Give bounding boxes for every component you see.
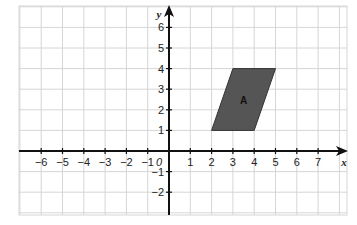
y-tick-label: −2: [151, 186, 164, 198]
x-tick-label: 5: [272, 156, 278, 168]
tick-labels: −6−5−4−3−2−11234567654321−1−20xy: [35, 8, 347, 198]
x-tick-label: 6: [294, 156, 300, 168]
y-tick-label: 2: [158, 104, 164, 116]
y-axis-label: y: [155, 8, 162, 20]
x-axis-label: x: [340, 156, 347, 168]
x-tick-label: 2: [209, 156, 215, 168]
y-tick-label: 3: [158, 83, 164, 95]
x-tick-label: 1: [187, 156, 193, 168]
shape-label: A: [240, 95, 247, 106]
x-tick-label: −3: [99, 156, 112, 168]
y-tick-label: 6: [158, 21, 164, 33]
x-tick-label: 3: [230, 156, 236, 168]
x-tick-label: −5: [56, 156, 69, 168]
y-tick-label: 4: [158, 63, 164, 75]
x-tick-label: 7: [315, 156, 321, 168]
x-tick-label: −2: [120, 156, 133, 168]
grid-lines: [19, 6, 347, 215]
shape-layer: A: [212, 69, 276, 131]
x-tick-label: 4: [251, 156, 257, 168]
x-tick-label: −4: [78, 156, 91, 168]
origin-label: 0: [156, 156, 163, 168]
y-tick-label: 5: [158, 42, 164, 54]
coordinate-plane: A −6−5−4−3−2−11234567654321−1−20xy: [0, 0, 357, 225]
x-tick-label: −6: [35, 156, 48, 168]
y-tick-label: 1: [158, 124, 164, 136]
grid-border: [19, 6, 347, 215]
